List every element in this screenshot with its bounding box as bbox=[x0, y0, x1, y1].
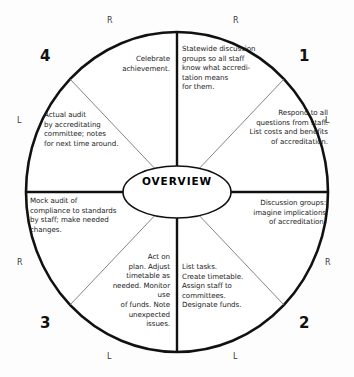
edge-marker-right-lower: R bbox=[325, 258, 331, 267]
segment-text-3-left: Mock audit of compliance to standards by… bbox=[30, 196, 146, 234]
segment-text-4-lower: Actual audit by accreditating committee;… bbox=[44, 110, 156, 148]
edge-marker-top-left: R bbox=[107, 16, 113, 25]
quadrant-number-1: 1 bbox=[299, 47, 309, 65]
segment-text-1-upper: Statewide discussion groups so all staff… bbox=[182, 44, 278, 92]
quadrant-number-2: 2 bbox=[299, 314, 309, 332]
edge-marker-left-upper: L bbox=[17, 116, 21, 125]
segment-text-4-upper: Celebrate achievement. bbox=[96, 54, 170, 73]
edge-marker-bottom-right: L bbox=[233, 352, 237, 361]
segment-text-3-right: Act on plan. Adjust timetable as needed.… bbox=[106, 252, 170, 329]
edge-marker-left-lower: R bbox=[17, 258, 23, 267]
edge-marker-bottom-left: L bbox=[107, 352, 111, 361]
edge-marker-top-right: R bbox=[233, 16, 239, 25]
quadrant-number-3: 3 bbox=[40, 314, 50, 332]
quadrant-number-4: 4 bbox=[40, 47, 50, 65]
segment-text-1-lower: Respond to all questions from staff. Lis… bbox=[224, 108, 328, 146]
segment-text-2-upper: Discussion groups: imagine implications … bbox=[232, 198, 326, 227]
center-label: OVERVIEW bbox=[126, 175, 228, 187]
accreditation-cycle-diagram: OVERVIEW 1 2 3 4 R R L L R R L L Statewi… bbox=[0, 0, 354, 377]
segment-text-2-lower: List tasks. Create timetable. Assign sta… bbox=[182, 262, 274, 310]
